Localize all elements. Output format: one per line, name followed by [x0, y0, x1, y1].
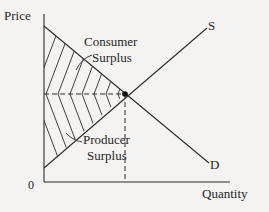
equilibrium-point — [122, 91, 128, 97]
consumer-surplus-label-line1: Consumer — [84, 34, 138, 49]
supply-curve-label: S — [208, 18, 215, 33]
y-axis-label: Price — [4, 8, 31, 23]
supply-demand-diagram: Price 0 Quantity S D Consumer Surplus Pr… — [0, 0, 269, 212]
producer-surplus-label-line1: Producer — [83, 132, 131, 147]
producer-surplus-label-line2: Surplus — [87, 148, 127, 163]
x-axis-label: Quantity — [202, 186, 248, 201]
consumer-surplus-leader — [76, 55, 92, 70]
demand-curve-label: D — [210, 157, 219, 172]
origin-label: 0 — [28, 178, 34, 192]
consumer-surplus-label-line2: Surplus — [92, 50, 132, 65]
